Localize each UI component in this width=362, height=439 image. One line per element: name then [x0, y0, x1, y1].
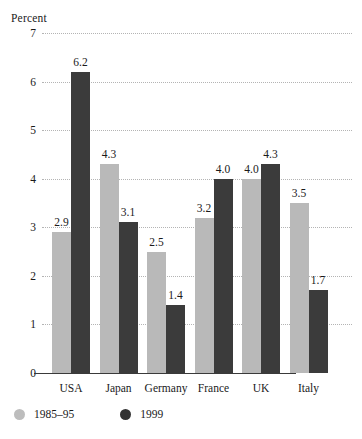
bar — [309, 290, 328, 373]
bar — [214, 179, 233, 373]
legend-label: 1999 — [140, 408, 163, 420]
bar — [71, 72, 90, 373]
bar-value-label: 3.5 — [292, 187, 306, 199]
bar-value-label: 4.3 — [263, 148, 277, 160]
category-label: France — [198, 382, 229, 394]
bar-value-label: 2.9 — [54, 216, 68, 228]
legend-item: 1985–95 — [14, 408, 74, 420]
y-tick-label: 2 — [6, 270, 36, 282]
legend-label: 1985–95 — [34, 408, 74, 420]
x-axis-baseline — [34, 373, 296, 374]
bar-value-label: 3.1 — [121, 206, 135, 218]
y-tick-label: 4 — [6, 173, 36, 185]
y-tick-label: 6 — [6, 76, 36, 88]
y-tick-label: 5 — [6, 124, 36, 136]
y-axis-title: Percent — [11, 12, 47, 24]
category-label: UK — [253, 382, 270, 394]
bar — [242, 179, 261, 373]
legend-swatch-icon — [14, 409, 25, 420]
category-label: Germany — [145, 382, 188, 394]
bar-value-label: 6.2 — [73, 56, 87, 68]
y-tick-label: 7 — [6, 27, 36, 39]
bar-value-label: 2.5 — [149, 236, 163, 248]
bar — [261, 164, 280, 373]
bar-value-label: 3.2 — [197, 202, 211, 214]
y-tick-label: 3 — [6, 221, 36, 233]
bar — [52, 232, 71, 373]
bar-value-label: 1.7 — [311, 274, 325, 286]
bar — [290, 203, 309, 373]
chart-legend: 1985–951999 — [14, 408, 209, 420]
bar-value-label: 1.4 — [168, 289, 182, 301]
bar — [119, 222, 138, 373]
category-label: Italy — [298, 382, 319, 394]
y-tick-label: 0 — [6, 367, 36, 379]
bar — [195, 218, 214, 373]
bar-value-label: 4.0 — [216, 163, 230, 175]
legend-item: 1999 — [120, 408, 163, 420]
legend-swatch-icon — [120, 409, 131, 420]
category-label: USA — [59, 382, 82, 394]
bar-value-label: 4.3 — [102, 148, 116, 160]
bars-layer: 2.96.24.33.12.51.43.24.04.04.33.51.7 — [42, 33, 352, 373]
category-label: Japan — [105, 382, 131, 394]
bar — [166, 305, 185, 373]
bar-chart-figure: Percent 01234567 2.96.24.33.12.51.43.24.… — [0, 0, 362, 439]
bar — [100, 164, 119, 373]
y-tick-label: 1 — [6, 318, 36, 330]
bar — [147, 252, 166, 373]
bar-value-label: 4.0 — [244, 163, 258, 175]
